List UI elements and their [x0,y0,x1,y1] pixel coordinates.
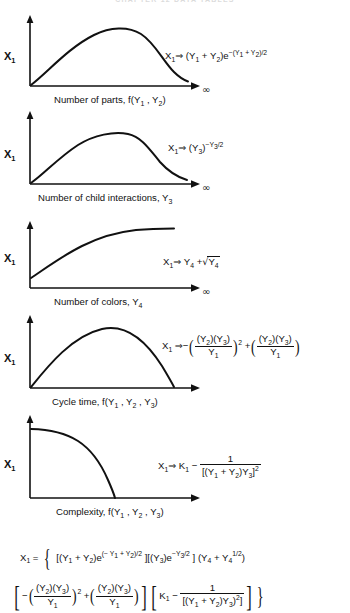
equation-colors: X1⇒ Y4 +√Y4 [163,256,220,270]
curve-complexity [31,429,115,498]
x-axis-label-colors: Number of colors, Y4 [54,296,143,309]
final-equation-line-1: X1 = { [(Y1 + Y2)e(− Y1 + Y2)/2 ][(Y3)e−… [20,543,350,573]
equation-parts: X1⇒ (Y1 + Y2)e−(Y1 + Y2)/2 [165,50,267,64]
infinity-icon-child: ∞ [202,182,210,193]
y-axis-arrowhead [27,111,34,119]
y-axis-arrowhead [27,15,34,23]
y-axis-label-colors: X1 [4,252,16,267]
final-equation-line-2: [−((Y2)(Y3)Y1)2 +((Y2)(Y3)Y1)][K1 − 1[(Y… [12,579,350,613]
curve-colors [31,228,174,278]
y-axis-label-child: X1 [4,148,16,163]
infinity-icon-colors: ∞ [202,286,210,297]
running-head: CHAPTER 12 DATA TABLES [0,0,350,4]
final-equation: X1 = { [(Y1 + Y2)e(− Y1 + Y2)/2 ][(Y3)e−… [20,543,350,613]
y-axis-arrowhead [27,221,34,229]
x-axis-arrowhead [191,384,200,392]
y-axis-arrowhead [27,315,34,323]
x-axis-arrowhead [191,284,200,292]
x-axis-label-parts: Number of parts, f(Y1 , Y2) [54,94,166,107]
panel-number-of-colors: X1 ∞ Number of colors, Y4 X1⇒ Y4 +√Y4 [0,220,350,308]
x-axis-arrowhead [191,82,200,90]
panel-number-of-parts: X1 ∞ Number of parts, f(Y1 , Y2) X1⇒ (Y1… [0,14,350,104]
panel-cycle-time: X1 Cycle time, f(Y1 , Y2 , Y3) X1 ⇒−((Y2… [0,314,350,410]
curve-cycle [31,328,174,387]
equation-child: X1⇒ (Y3)−Y3/2 [168,142,223,156]
equation-complexity: X1⇒ K1 − 1[(Y1 + Y2)Y3]2 [158,454,261,479]
y-axis-arrowhead [27,415,34,423]
figure-page: CHAPTER 12 DATA TABLES X1 ∞ Number of pa… [0,0,350,613]
panel-complexity: X1 Complexity, f(Y1 , Y2 , Y3) X1⇒ K1 − … [0,414,350,519]
infinity-icon-parts: ∞ [202,84,210,95]
x-axis-label-cycle: Cycle time, f(Y1 , Y2 , Y3) [52,396,158,409]
y-axis-label-parts: X1 [4,50,16,65]
x-axis-arrowhead [191,180,200,188]
x-axis-label-complexity: Complexity, f(Y1 , Y2 , Y3) [56,506,164,519]
equation-cycle: X1 ⇒−((Y2)(Y3)Y1)2 +((Y2)(Y3)Y1) [162,334,300,359]
x-axis-arrowhead [191,494,200,502]
y-axis-label-complexity: X1 [4,458,16,473]
panel-child-interactions: X1 ∞ Number of child interactions, Y3 X1… [0,110,350,202]
x-axis-label-child: Number of child interactions, Y3 [38,192,172,205]
y-axis-label-cycle: X1 [4,352,16,367]
curve-child [31,133,187,183]
